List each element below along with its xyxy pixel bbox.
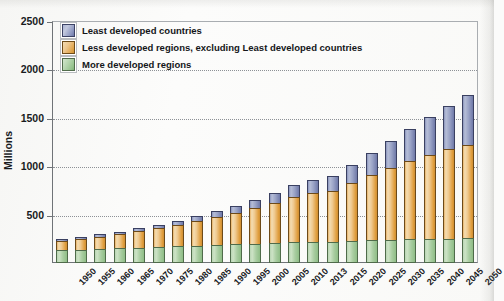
bar-segment-least-2050	[462, 95, 474, 145]
bar-1980	[172, 221, 184, 263]
legend-label: Least developed countries	[82, 25, 202, 36]
legend-item-less: Less developed regions, excluding Least …	[62, 41, 362, 54]
y-tick-label-500: 500	[26, 209, 44, 221]
bar-segment-less-2000	[249, 208, 261, 244]
x-tick-label-2030: 2030	[406, 266, 427, 287]
bar-2005	[269, 193, 281, 263]
bar-segment-more-1990	[211, 245, 223, 263]
legend-swatch-least-icon	[62, 24, 75, 37]
legend-item-least: Least developed countries	[62, 24, 362, 37]
bar-segment-least-2000	[249, 200, 261, 208]
bar-segment-least-2045	[443, 106, 455, 150]
x-tick-label-2015: 2015	[348, 266, 369, 287]
bar-segment-more-2015	[327, 242, 339, 263]
bar-1950	[56, 239, 68, 263]
bar-1965	[114, 232, 126, 263]
bar-segment-more-2050	[462, 238, 474, 263]
bar-1990	[211, 211, 223, 263]
bar-segment-less-1960	[94, 237, 106, 249]
bar-1955	[75, 237, 87, 263]
bar-1970	[133, 228, 145, 263]
bar-segment-more-1960	[94, 249, 106, 263]
bar-2040	[424, 117, 436, 263]
bar-segment-less-2010	[288, 197, 300, 243]
x-tick-label-1955: 1955	[96, 266, 117, 287]
bar-segment-least-2025	[366, 153, 378, 176]
bar-segment-more-2020	[346, 241, 358, 263]
bar-segment-less-2025	[366, 175, 378, 240]
bar-segment-less-2020	[346, 183, 358, 241]
legend-swatch-less-icon	[62, 41, 75, 54]
y-axis-title: Millions	[2, 131, 14, 170]
bar-2010	[288, 185, 300, 263]
bar-segment-less-2035	[404, 161, 416, 239]
x-tick-label-2040: 2040	[444, 266, 465, 287]
x-tick-label-1960: 1960	[115, 266, 136, 287]
bar-2013	[307, 180, 319, 263]
x-tick-label-1965: 1965	[135, 266, 156, 287]
bar-segment-more-2030	[385, 240, 397, 263]
x-tick-label-1950: 1950	[77, 266, 98, 287]
legend-item-more: More developed regions	[62, 58, 362, 71]
x-tick-label-1970: 1970	[154, 266, 175, 287]
bar-segment-more-1965	[114, 248, 126, 263]
y-tick-label-2000: 2000	[21, 63, 44, 75]
x-tick-label-2035: 2035	[425, 266, 446, 287]
bar-segment-more-2010	[288, 242, 300, 263]
bar-segment-more-1975	[153, 247, 165, 263]
bar-2050	[462, 95, 474, 263]
bar-2020	[346, 165, 358, 263]
bar-2030	[385, 141, 397, 263]
bar-segment-least-2010	[288, 185, 300, 197]
chart-legend: Least developed countriesLess developed …	[62, 24, 362, 71]
bar-segment-least-2013	[307, 180, 319, 194]
x-tick-label-1995: 1995	[251, 266, 272, 287]
bar-segment-less-2015	[327, 191, 339, 242]
legend-label: More developed regions	[82, 59, 191, 70]
bar-segment-least-2040	[424, 117, 436, 155]
legend-swatch-more-icon	[62, 58, 75, 71]
bar-segment-more-1950	[56, 250, 68, 263]
bar-segment-least-2020	[346, 165, 358, 183]
bar-segment-less-1975	[153, 228, 165, 247]
bar-segment-less-1965	[114, 234, 126, 248]
y-axis-labels: 5001000150020002500Millions	[0, 0, 52, 301]
bar-segment-less-2030	[385, 168, 397, 240]
bar-segment-more-1955	[75, 250, 87, 263]
legend-label: Less developed regions, excluding Least …	[82, 42, 362, 53]
bar-2045	[443, 106, 455, 263]
bar-segment-less-1950	[56, 241, 68, 251]
bar-segment-more-2025	[366, 240, 378, 263]
bar-segment-more-2045	[443, 239, 455, 263]
bar-1960	[94, 234, 106, 263]
bar-2000	[249, 200, 261, 263]
bar-segment-less-2013	[307, 193, 319, 242]
bar-segment-more-1980	[172, 246, 184, 263]
x-tick-label-2020: 2020	[367, 266, 388, 287]
bar-segment-more-2005	[269, 243, 281, 263]
bar-segment-more-1985	[191, 246, 203, 263]
x-tick-label-1975: 1975	[173, 266, 194, 287]
bar-segment-more-2000	[249, 244, 261, 263]
bar-2015	[327, 176, 339, 263]
x-tick-label-1990: 1990	[231, 266, 252, 287]
x-axis-labels: 1950195519601965197019751980198519901995…	[52, 263, 478, 301]
bar-segment-less-2045	[443, 149, 455, 238]
x-tick-label-2000: 2000	[270, 266, 291, 287]
bar-segment-more-1970	[133, 248, 145, 263]
bar-segment-less-1980	[172, 225, 184, 246]
bar-segment-less-2005	[269, 203, 281, 244]
bar-segment-less-1970	[133, 231, 145, 247]
x-tick-label-1980: 1980	[193, 266, 214, 287]
bar-segment-less-2050	[462, 145, 474, 239]
bar-segment-least-2035	[404, 129, 416, 161]
x-tick-label-2025: 2025	[386, 266, 407, 287]
y-tick-label-2500: 2500	[21, 15, 44, 27]
y-tick-label-1500: 1500	[21, 112, 44, 124]
bar-2035	[404, 129, 416, 263]
y-tick-label-1000: 1000	[21, 160, 44, 172]
bar-segment-less-1985	[191, 221, 203, 245]
bar-1975	[153, 225, 165, 263]
bar-segment-more-1995	[230, 244, 242, 263]
bar-segment-less-1955	[75, 239, 87, 250]
